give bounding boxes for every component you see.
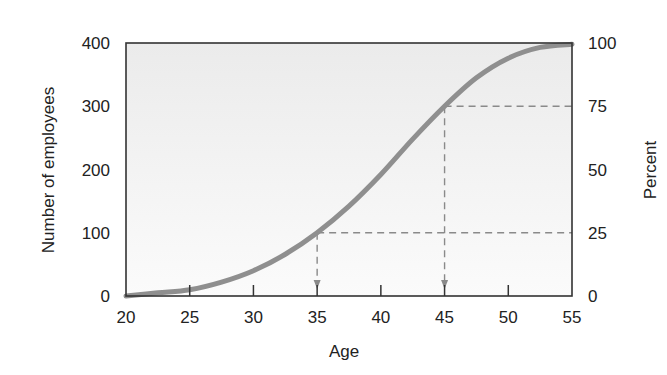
y-left-tick-label: 100 (82, 224, 110, 243)
y-left-tick-label: 200 (82, 161, 110, 180)
y-left-tick-label: 300 (82, 97, 110, 116)
y-right-tick-label: 0 (588, 287, 597, 306)
x-tick-label: 25 (180, 308, 199, 327)
x-tick-label: 30 (244, 308, 263, 327)
x-tick-label: 50 (499, 308, 518, 327)
plot-area (126, 43, 572, 296)
x-tick-label: 35 (308, 308, 327, 327)
y-axis-right-title: Percent (641, 140, 660, 199)
y-axis-right-tick-labels: 0255075100 (588, 34, 616, 306)
x-tick-label: 20 (117, 308, 136, 327)
cumulative-age-chart: 2025303540455055 0100200300400 025507510… (0, 0, 667, 375)
y-right-tick-label: 50 (588, 161, 607, 180)
x-axis-title: Age (329, 342, 359, 361)
y-right-tick-label: 25 (588, 224, 607, 243)
y-right-tick-label: 100 (588, 34, 616, 53)
x-tick-label: 45 (435, 308, 454, 327)
y-left-tick-label: 400 (82, 34, 110, 53)
y-axis-left-title: Number of employees (39, 87, 58, 253)
x-tick-label: 40 (371, 308, 390, 327)
y-axis-left-tick-labels: 0100200300400 (82, 34, 110, 306)
y-left-tick-label: 0 (101, 287, 110, 306)
x-axis-tick-labels: 2025303540455055 (117, 308, 582, 327)
x-tick-label: 55 (563, 308, 582, 327)
y-right-tick-label: 75 (588, 97, 607, 116)
